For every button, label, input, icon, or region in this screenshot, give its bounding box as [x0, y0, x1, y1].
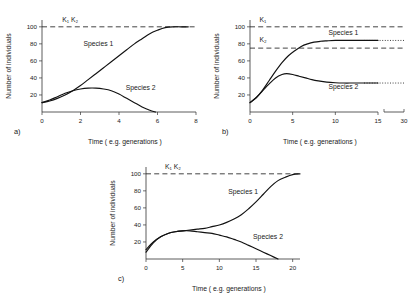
- series-label: Species 1: [83, 40, 113, 48]
- svg-text:60: 60: [30, 57, 37, 64]
- curve-species-1: [42, 27, 188, 103]
- svg-text:40: 40: [134, 221, 141, 228]
- x-axis-ticks: 05101530: [248, 112, 408, 124]
- panel-letter: b): [222, 127, 229, 136]
- carrying-capacity-label: K₂: [259, 36, 267, 43]
- svg-text:80: 80: [134, 187, 141, 194]
- series-curves: [250, 40, 378, 102]
- panel-b: 2040608010005101530K₁K₂Species 1Species …: [208, 0, 416, 150]
- series-curves: [146, 174, 300, 259]
- svg-text:20: 20: [289, 264, 296, 271]
- svg-text:10: 10: [332, 117, 339, 124]
- svg-text:10: 10: [216, 264, 223, 271]
- panel-a: 2040608010002468K₁ K₂Species 1Species 2T…: [0, 0, 208, 150]
- svg-text:8: 8: [194, 117, 198, 124]
- svg-text:40: 40: [238, 74, 245, 81]
- y-axis-ticks: 20406080100: [27, 23, 42, 98]
- chart-a: 2040608010002468K₁ K₂Species 1Species 2T…: [0, 0, 208, 150]
- axes: [42, 20, 196, 112]
- svg-text:100: 100: [131, 170, 142, 177]
- svg-text:100: 100: [27, 23, 38, 30]
- curve-species-2: [42, 88, 156, 112]
- panel-letter: c): [118, 274, 124, 283]
- x-axis-title: Time ( e.g. generations ): [283, 138, 357, 146]
- chart-b: 2040608010005101530K₁K₂Species 1Species …: [208, 0, 416, 150]
- svg-text:5: 5: [181, 264, 185, 271]
- curve-species-2: [250, 74, 378, 103]
- x-axis-title: Time ( e.g. generations ): [192, 285, 266, 293]
- svg-text:80: 80: [30, 40, 37, 47]
- carrying-capacity-label: K₁ K₂: [165, 163, 181, 170]
- svg-text:0: 0: [40, 117, 44, 124]
- competition-outcomes-figure: 2040608010002468K₁ K₂Species 1Species 2T…: [0, 0, 416, 297]
- axes: [250, 20, 404, 112]
- curve-species-1: [250, 40, 378, 102]
- y-axis-ticks: 20406080100: [235, 23, 250, 98]
- svg-text:20: 20: [134, 238, 141, 245]
- svg-text:6: 6: [156, 117, 160, 124]
- series-label: Species 2: [253, 233, 283, 241]
- svg-text:20: 20: [30, 91, 37, 98]
- svg-text:2: 2: [79, 117, 83, 124]
- y-axis-title: Number of individuals: [213, 33, 220, 99]
- svg-text:4: 4: [117, 117, 121, 124]
- svg-text:20: 20: [238, 91, 245, 98]
- svg-text:60: 60: [134, 204, 141, 211]
- svg-text:30: 30: [401, 117, 408, 124]
- y-axis-title: Number of individuals: [109, 180, 116, 246]
- chart-c: 2040608010005101520K₁ K₂Species 1Species…: [104, 147, 312, 297]
- carrying-capacity-lines: [250, 27, 404, 48]
- svg-text:15: 15: [253, 264, 260, 271]
- x-axis-title: Time ( e.g. generations ): [88, 138, 162, 146]
- series-label: Species 2: [329, 83, 359, 91]
- series-label: Species 1: [329, 29, 359, 37]
- svg-text:0: 0: [144, 264, 148, 271]
- svg-text:0: 0: [248, 117, 252, 124]
- equilibrium-lines: [364, 40, 404, 83]
- svg-text:15: 15: [375, 117, 382, 124]
- series-curves: [42, 27, 188, 112]
- x-axis-ticks: 02468: [40, 112, 198, 124]
- carrying-capacity-label: K₁: [259, 16, 267, 23]
- y-axis-ticks: 20406080100: [131, 170, 146, 245]
- svg-text:40: 40: [30, 74, 37, 81]
- svg-text:60: 60: [238, 57, 245, 64]
- svg-text:100: 100: [235, 23, 246, 30]
- svg-text:80: 80: [238, 40, 245, 47]
- svg-text:5: 5: [291, 117, 295, 124]
- carrying-capacity-label: K₁ K₂: [62, 16, 78, 23]
- panel-c: 2040608010005101520K₁ K₂Species 1Species…: [104, 147, 312, 297]
- series-label: Species 1: [228, 188, 258, 196]
- panel-letter: a): [14, 127, 21, 136]
- series-label: Species 2: [126, 84, 156, 92]
- x-axis-ticks: 05101520: [144, 259, 296, 271]
- annotations: K₁ K₂Species 1Species 2: [165, 163, 283, 241]
- y-axis-title: Number of individuals: [5, 33, 12, 99]
